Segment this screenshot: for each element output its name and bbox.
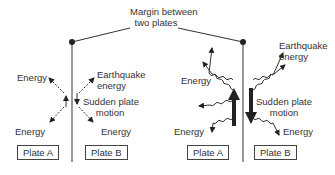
- left-energy-bottom-right: Energy: [101, 126, 131, 137]
- left-earthquake-line1: Earthquake: [97, 69, 146, 80]
- left-plate-b: Plate B: [85, 145, 128, 160]
- margin-leader-lines: [72, 28, 243, 42]
- left-sudden-line2: motion: [83, 107, 137, 118]
- margin-title: Margin between two plates: [130, 6, 182, 28]
- left-sudden-motion: Sudden plate motion: [83, 96, 137, 118]
- left-energy-top-left: Energy: [17, 72, 47, 83]
- left-fault-line: [69, 39, 75, 162]
- left-earthquake-energy: Earthquake energy: [97, 69, 146, 91]
- right-energy-bottom-left: Energy: [174, 126, 204, 137]
- right-energy-waves: [199, 48, 285, 135]
- right-sudden-line2: motion: [254, 107, 314, 118]
- right-earthquake-line1: Earthquake: [279, 40, 328, 51]
- right-earthquake-energy: Earthquake energy: [279, 40, 328, 62]
- left-sudden-line1: Sudden plate: [83, 96, 137, 107]
- left-plate-a: Plate A: [17, 145, 59, 160]
- right-energy-left: Energy: [181, 75, 211, 86]
- right-plate-a: Plate A: [187, 145, 229, 160]
- right-earthquake-line2: energy: [279, 51, 328, 62]
- right-plate-b: Plate B: [254, 145, 297, 160]
- margin-title-line2: two plates: [130, 17, 182, 28]
- right-energy-bottom-right: Energy: [283, 126, 313, 137]
- right-sudden-motion: Sudden plate motion: [254, 96, 314, 118]
- margin-title-line1: Margin between: [130, 6, 182, 17]
- left-energy-bottom-left: Energy: [15, 126, 45, 137]
- left-earthquake-line2: energy: [97, 80, 146, 91]
- right-sudden-line1: Sudden plate: [254, 96, 314, 107]
- right-fault-line: [240, 39, 246, 162]
